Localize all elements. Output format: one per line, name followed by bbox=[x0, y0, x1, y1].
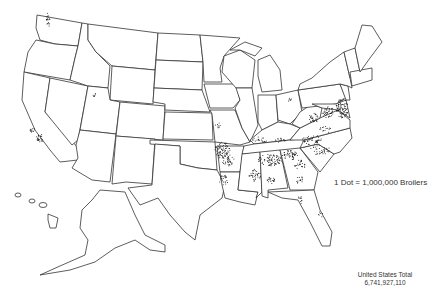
state-wyoming bbox=[110, 66, 155, 104]
conus-states bbox=[22, 15, 382, 246]
state-north-dakota bbox=[156, 33, 203, 62]
state-michigan bbox=[258, 55, 282, 92]
state-wisconsin bbox=[222, 50, 255, 88]
state-new-york bbox=[298, 52, 352, 90]
us-total-value: 6,741,927,110 bbox=[350, 279, 420, 287]
state-arizona bbox=[72, 130, 116, 182]
us-broiler-dot-map bbox=[0, 0, 438, 295]
state-hawaii bbox=[15, 193, 58, 228]
state-arkansas bbox=[217, 146, 244, 172]
state-maine bbox=[355, 25, 382, 72]
us-total-label: United States Total bbox=[350, 271, 420, 279]
state-iowa bbox=[204, 84, 240, 108]
state-kansas bbox=[163, 112, 213, 140]
state-south-dakota bbox=[154, 60, 203, 90]
legend-dot-value: 1 Dot = 1,000,000 Broilers bbox=[334, 178, 427, 187]
state-colorado bbox=[116, 102, 165, 140]
state-new-mexico bbox=[112, 136, 155, 184]
us-total: United States Total 6,741,927,110 bbox=[350, 271, 420, 287]
